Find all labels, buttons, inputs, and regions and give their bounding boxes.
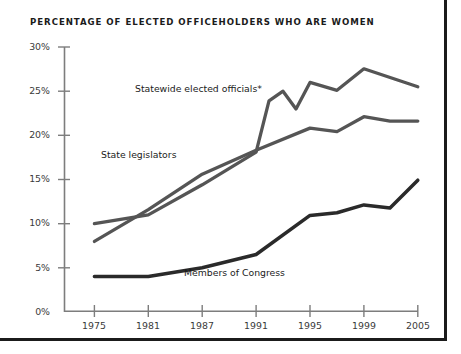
y-tick-label-20: 20% xyxy=(16,129,50,140)
y-tick-label-10: 10% xyxy=(16,217,50,228)
x-tick-label-1991: 1991 xyxy=(234,320,278,331)
series-line-congress xyxy=(94,180,417,276)
y-tick-label-0: 0% xyxy=(16,306,50,317)
x-tick-label-1981: 1981 xyxy=(126,320,170,331)
x-tick-label-1999: 1999 xyxy=(342,320,386,331)
chart-frame: PERCENTAGE OF ELECTED OFFICEHOLDERS WHO … xyxy=(0,0,447,341)
y-tick-label-5: 5% xyxy=(16,262,50,273)
y-tick-label-15: 15% xyxy=(16,173,50,184)
y-tick-label-25: 25% xyxy=(16,85,50,96)
series-label-legislators: State legislators xyxy=(101,149,176,160)
series-label-congress: Members of Congress xyxy=(184,267,285,278)
x-tick-label-1975: 1975 xyxy=(72,320,116,331)
y-tick-label-30: 30% xyxy=(16,41,50,52)
x-tick-label-2005: 2005 xyxy=(396,320,440,331)
x-tick-label-1987: 1987 xyxy=(180,320,224,331)
x-tick-label-1995: 1995 xyxy=(288,320,332,331)
series-label-statewide: Statewide elected officials* xyxy=(135,83,262,94)
line-chart-canvas xyxy=(0,0,447,341)
series-line-legislators xyxy=(94,117,417,242)
